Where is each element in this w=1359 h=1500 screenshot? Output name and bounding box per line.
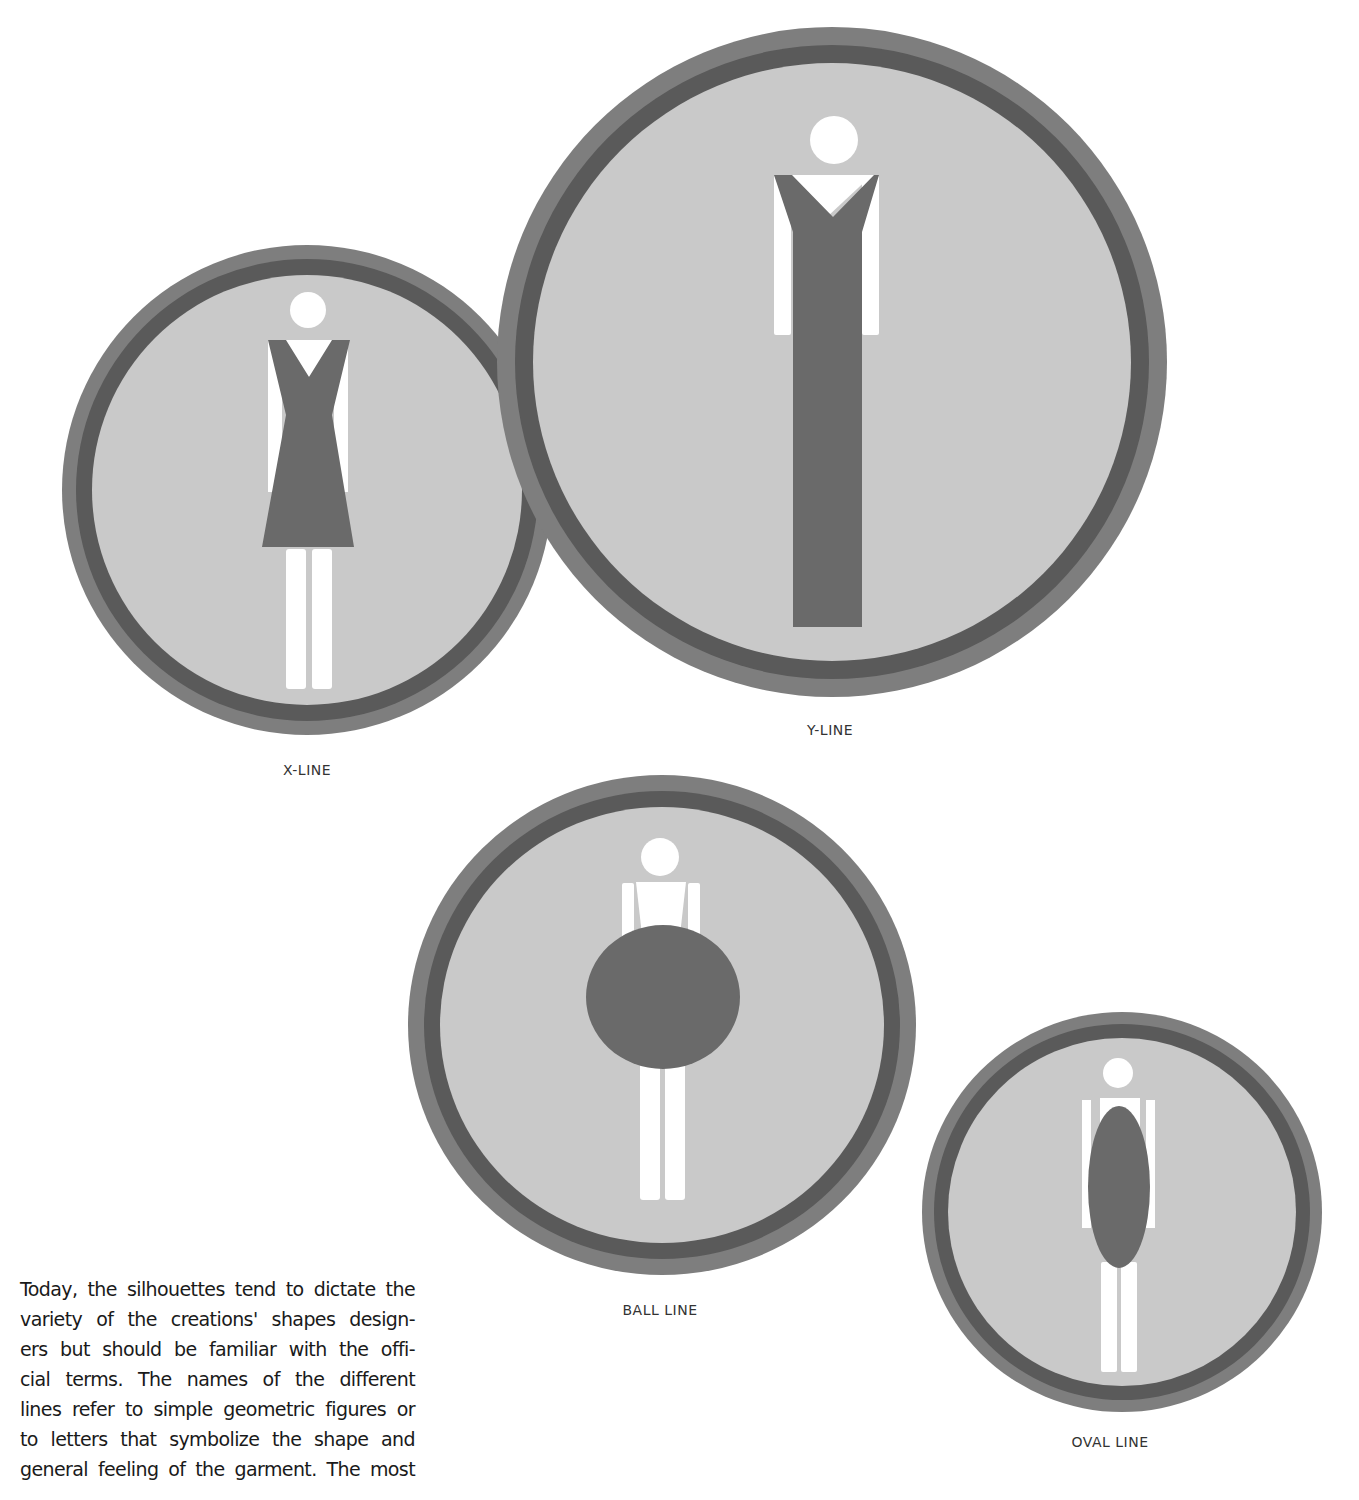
y-line-badge bbox=[497, 27, 1167, 697]
ball-line-badge bbox=[408, 775, 916, 1275]
body-line: general feeling of the garment. The most bbox=[20, 1454, 415, 1484]
x-line-badge bbox=[62, 245, 552, 735]
ball-line-figure-icon bbox=[408, 775, 916, 1275]
y-line-caption: Y-LINE bbox=[807, 722, 853, 738]
x-line-caption: X-LINE bbox=[283, 762, 331, 778]
body-line: variety of the creations' shapes design- bbox=[20, 1304, 415, 1334]
body-line: Today, the silhouettes tend to dictate t… bbox=[20, 1274, 415, 1304]
ball-line-caption: BALL LINE bbox=[623, 1302, 698, 1318]
x-line-figure-icon bbox=[62, 245, 552, 735]
body-paragraph: Today, the silhouettes tend to dictate t… bbox=[20, 1274, 415, 1484]
body-line: cial terms. The names of the different bbox=[20, 1364, 415, 1394]
oval-line-figure-icon bbox=[922, 1012, 1322, 1412]
oval-line-badge bbox=[922, 1012, 1322, 1412]
oval-line-caption: OVAL LINE bbox=[1071, 1434, 1148, 1450]
body-line: lines refer to simple geometric figures … bbox=[20, 1394, 415, 1424]
body-line: ers but should be familiar with the offi… bbox=[20, 1334, 415, 1364]
y-line-figure-icon bbox=[497, 27, 1167, 697]
body-line: to letters that symbolize the shape and bbox=[20, 1424, 415, 1454]
